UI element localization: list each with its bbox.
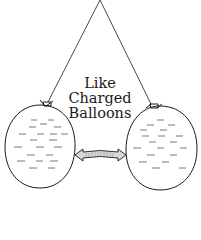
title-line-1: Like — [60, 76, 140, 91]
title-line-3: Balloons — [60, 106, 140, 121]
diagram-title: Like Charged Balloons — [60, 76, 140, 121]
repulsion-arrow-icon — [75, 149, 126, 161]
title-line-2: Charged — [60, 91, 140, 106]
